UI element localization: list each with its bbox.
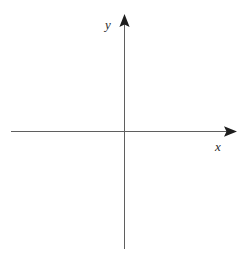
x-axis-label: x bbox=[215, 140, 221, 153]
y-axis-label: y bbox=[105, 18, 111, 31]
axes-canvas bbox=[0, 0, 248, 262]
coordinate-axes-figure: y x bbox=[0, 0, 248, 262]
